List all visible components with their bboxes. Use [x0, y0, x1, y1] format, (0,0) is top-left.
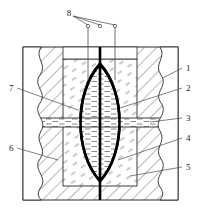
- callout-label-4: 4: [186, 133, 191, 143]
- callout-label-8: 8: [67, 8, 72, 18]
- callout-label-7: 7: [9, 83, 14, 93]
- leader-8-c: [73, 16, 115, 25]
- technical-drawing-svg: 8 1 2 3 4 5 6 7: [0, 0, 200, 208]
- callout-label-2: 2: [186, 83, 191, 93]
- callout-label-6: 6: [9, 143, 14, 153]
- callout-label-1: 1: [186, 63, 191, 73]
- figure-root: 8 1 2 3 4 5 6 7: [0, 0, 200, 208]
- break-line-left: [23, 47, 43, 200]
- leader-8-b: [73, 16, 100, 25]
- callout-label-5: 5: [186, 162, 191, 172]
- break-line-right: [158, 47, 178, 200]
- callout-label-3: 3: [186, 113, 191, 123]
